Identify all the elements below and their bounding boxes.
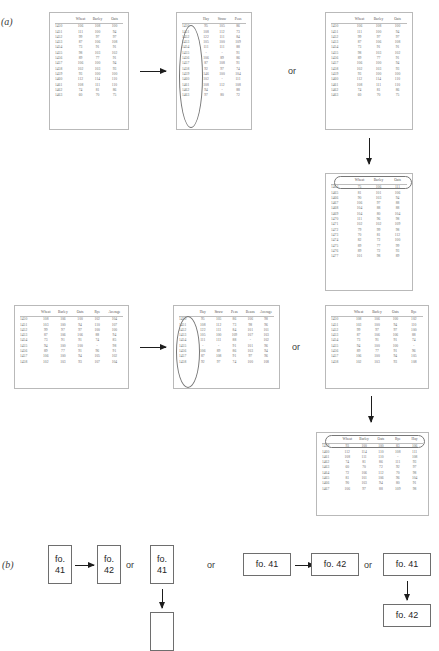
column-header: Wheat: [37, 310, 54, 317]
arrow-right-a1-a2: [140, 71, 166, 72]
arrow-down-fo41-fo42-right: [407, 581, 408, 600]
table-card-wheat-barley-oats-rye-hay: WheatBarleyOatsRyeHay1459931001008310614…: [316, 432, 429, 516]
data-table: HayStrawPeas1450951058614511081127314521…: [182, 17, 246, 98]
table-cell: 97: [356, 487, 373, 492]
arrow-right-b1-b2: [140, 347, 166, 348]
data-table: HayStrawPeasBeansAverage1450951058610698…: [179, 310, 274, 365]
table-cell: 74: [226, 360, 242, 365]
table-cell: 1463: [182, 93, 198, 98]
table-cell: 102: [37, 360, 54, 365]
column-header: Oats: [388, 17, 407, 24]
table-row: 14771019889: [331, 254, 407, 259]
column-header: Oats: [372, 437, 389, 444]
column-header: Barley: [356, 437, 373, 444]
or-label-second: or: [292, 342, 300, 352]
table-cell: 1477: [331, 254, 350, 259]
table-cell: 93: [71, 360, 88, 365]
table-cell: 93: [386, 360, 404, 365]
table-row: 1463607075: [331, 93, 407, 98]
table-cell: 1458: [331, 360, 349, 365]
data-table: WheatBarleyOats1450106108100145111110094…: [331, 17, 407, 98]
table-row: 1467106978810998: [322, 487, 423, 492]
arrow-down-fo41-fo42-left: [162, 589, 163, 608]
data-table: WheatBarleyOatsRyeAverage145010810610010…: [20, 310, 123, 365]
column-header: Barley: [54, 310, 71, 317]
column-header: Wheat: [72, 17, 89, 24]
table-card-hay-straw-peas-source: HayStrawPeas1450951058614511081127314521…: [176, 12, 252, 130]
table-card-wheat-barley-oats-later: WheatBarleyOats1464751061111465811011061…: [325, 173, 413, 291]
column-header: Average: [258, 310, 274, 317]
table-cell: 75: [388, 93, 407, 98]
table-cell: 1467: [322, 487, 339, 492]
column-header: Average: [106, 310, 123, 317]
table-card-wheat-barley-oats-rye-alt: WheatBarleyOatsRye1450108106100102145110…: [325, 305, 429, 389]
column-header: [182, 17, 198, 24]
folio-box-left-1[interactable]: fo. 41: [48, 545, 72, 584]
column-header: Oats: [386, 310, 404, 317]
table-cell: 100: [242, 360, 258, 365]
column-header: Wheat: [349, 310, 367, 317]
column-header: Wheat: [350, 17, 369, 24]
folio-box-right-2[interactable]: fo. 42: [311, 553, 359, 576]
table-cell: 70: [89, 93, 106, 98]
table-cell: 60: [72, 93, 89, 98]
table-row: 145810210393107104: [20, 360, 123, 365]
table-cell: 80: [214, 93, 230, 98]
column-header: Hay: [195, 310, 211, 317]
column-header: Hay: [406, 437, 423, 444]
part-b-label: (b): [2, 559, 14, 570]
column-header: [20, 310, 37, 317]
column-header: Hay: [198, 17, 214, 24]
folio-box-right-1[interactable]: fo. 41: [243, 553, 291, 576]
column-header: Rye: [89, 310, 106, 317]
folio-box-left-3[interactable]: fo. 41: [150, 545, 174, 584]
table-cell: 101: [350, 254, 369, 259]
or-label-b-1: or: [126, 560, 134, 570]
folio-box-right-4[interactable]: fo. 42: [383, 604, 431, 627]
table-cell: 1458: [20, 360, 37, 365]
table-cell: 1463: [55, 93, 72, 98]
table-card-wheat-barley-oats-alt: WheatBarleyOats1450106108100145111110094…: [325, 12, 413, 130]
table-cell: 72: [230, 93, 246, 98]
column-header: Rye: [405, 310, 423, 317]
table-cell: 75: [106, 93, 123, 98]
column-header: Straw: [211, 310, 227, 317]
column-header: Barley: [369, 178, 388, 185]
column-header: Oats: [106, 17, 123, 24]
folio-box-left-2[interactable]: fo. 42: [97, 545, 121, 584]
table-row: 1463607075: [55, 93, 123, 98]
table-cell: 89: [388, 254, 407, 259]
table-row: 145810210393108: [331, 360, 423, 365]
column-header: [55, 17, 72, 24]
arrow-down-a3-a4: [369, 138, 370, 164]
table-cell: 104: [106, 360, 123, 365]
table-cell: 98: [406, 487, 423, 492]
table-cell: 98: [369, 254, 388, 259]
table-cell: 70: [369, 93, 388, 98]
table-row: 1458929774100108: [179, 360, 274, 365]
data-table: WheatBarleyOats1464751061111465811011061…: [331, 178, 407, 259]
table-cell: 102: [349, 360, 367, 365]
column-header: Oats: [388, 178, 407, 185]
folio-box-left-4[interactable]: [150, 612, 174, 651]
column-header: Beans: [242, 310, 258, 317]
table-cell: 92: [195, 360, 211, 365]
table-row: 1463978072: [182, 93, 246, 98]
table-cell: 108: [258, 360, 274, 365]
column-header: Straw: [214, 17, 230, 24]
or-label-b-3: or: [364, 560, 372, 570]
column-header: Barley: [368, 310, 386, 317]
or-label-b-2: or: [207, 560, 215, 570]
data-table: WheatBarleyOatsRye1450108106100102145110…: [331, 310, 423, 365]
column-header: [331, 310, 349, 317]
column-header: Wheat: [339, 437, 356, 444]
table-cell: 108: [405, 360, 423, 365]
column-header: Oats: [71, 310, 88, 317]
table-cell: 97: [198, 93, 214, 98]
or-label-top: or: [288, 66, 296, 76]
folio-box-right-3[interactable]: fo. 41: [383, 553, 431, 576]
table-cell: 1458: [179, 360, 195, 365]
column-header: Rye: [389, 437, 406, 444]
column-header: [331, 178, 350, 185]
